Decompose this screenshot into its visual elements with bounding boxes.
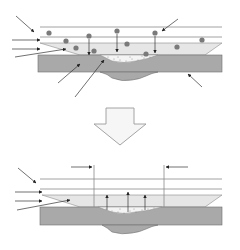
arrow-icon [18, 168, 36, 183]
arrow-icon [16, 16, 34, 32]
transition-down-arrow-icon [94, 108, 146, 145]
top-panel [12, 16, 222, 97]
boundary-layer [42, 195, 222, 207]
particle [114, 28, 119, 33]
arrow-icon [188, 74, 202, 87]
particle [143, 51, 148, 56]
boundary-layer [40, 43, 222, 55]
particle [91, 48, 96, 53]
particle [174, 44, 179, 49]
particle [46, 30, 51, 35]
bottom-panel [15, 165, 222, 234]
particle [152, 30, 157, 35]
particle [86, 33, 91, 38]
arrow-icon [162, 19, 178, 31]
particle [124, 41, 129, 46]
particle [199, 37, 204, 42]
diagram-canvas [0, 0, 240, 250]
particle [63, 38, 68, 43]
substrate-bump [102, 225, 158, 234]
substrate-bump [100, 72, 158, 81]
particle [73, 45, 78, 50]
